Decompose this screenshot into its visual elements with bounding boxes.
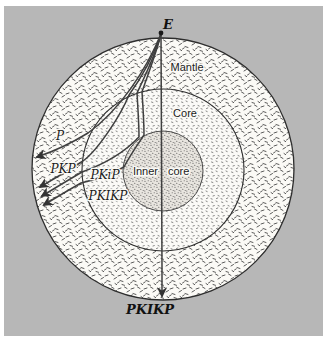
ray-pkip-label: PKiP <box>90 168 121 182</box>
earth-seismic-ray-figure: E Mantle Core Inner core P PKP PKiP PKIK… <box>0 0 325 343</box>
inner-core-label-word1: Inner <box>133 165 158 177</box>
ray-pkikp-label: PKIKP <box>88 189 129 203</box>
ray-pkp-label: PKP <box>49 162 76 176</box>
earth-cross-section-diagram: E Mantle Core Inner core P PKP PKiP PKIK… <box>0 0 325 343</box>
source-label: E <box>162 17 174 32</box>
inner-core-label-word2: core <box>168 165 189 177</box>
core-label: Core <box>173 107 197 119</box>
ray-pkikp-antipode-label: PKIKP <box>125 302 175 317</box>
mantle-label: Mantle <box>170 61 203 73</box>
ray-p-label: P <box>55 129 65 143</box>
